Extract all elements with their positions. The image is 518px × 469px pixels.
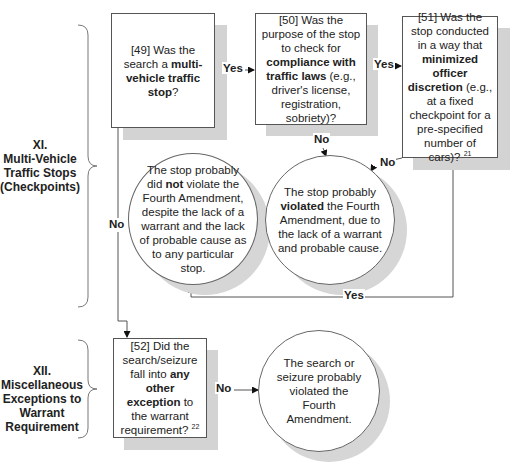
- section-xii-label: XII. Miscellaneous Exceptions to Warrant…: [0, 364, 84, 434]
- text-bold: violated: [280, 200, 323, 212]
- outcome-search-violated: The search or seizure probably violated …: [258, 330, 380, 452]
- footnote-ref: 22: [192, 423, 200, 430]
- edge-label-no: No: [215, 382, 232, 394]
- section-xii-line: Warrant: [0, 406, 84, 420]
- text: The stop probably: [284, 186, 376, 198]
- text: [51] Was the stop conducted in a way tha…: [411, 11, 489, 51]
- text-bold: not: [166, 178, 184, 190]
- outcome-text: The search or seizure probably violated …: [273, 356, 365, 426]
- question-49: [49] Was the search a multi-vehicle traf…: [111, 13, 215, 128]
- text: [50] Was the purpose of the stop to chec…: [262, 14, 360, 54]
- section-xi-line: (Checkpoints): [0, 180, 80, 194]
- question-49-text: [49] Was the search a multi-vehicle traf…: [116, 43, 210, 99]
- question-52-text: [52] Did the search/seizure fall into an…: [118, 339, 202, 437]
- outcome-not-violate: The stop probably did not violate the Fo…: [128, 153, 258, 285]
- edge-label-yes: Yes: [373, 58, 395, 70]
- text: The search or seizure probably violated …: [277, 357, 361, 425]
- edge-label-no: No: [108, 218, 125, 230]
- question-51-text: [51] Was the stop conducted in a way tha…: [407, 10, 493, 164]
- brace-xi: [78, 25, 97, 307]
- edge-label-no: No: [379, 156, 396, 168]
- section-xi-line: XI.: [0, 138, 80, 152]
- section-xi-label: XI. Multi-Vehicle Traffic Stops (Checkpo…: [0, 138, 80, 194]
- text: (e.g., at a fixed checkpoint for a pre-s…: [409, 81, 492, 163]
- question-52: [52] Did the search/seizure fall into an…: [113, 338, 207, 438]
- edge-label-yes: Yes: [343, 289, 365, 301]
- section-xii-line: Requirement: [0, 420, 84, 434]
- section-xii-line: Exceptions to: [0, 392, 84, 406]
- question-50-text: [50] Was the purpose of the stop to chec…: [260, 13, 362, 125]
- outcome-violated: The stop probably violated the Fourth Am…: [265, 155, 395, 285]
- edge-label-no: No: [313, 133, 330, 145]
- section-xi-line: Traffic Stops: [0, 166, 80, 180]
- question-51: [51] Was the stop conducted in a way tha…: [402, 16, 498, 158]
- edge-label-yes: Yes: [222, 62, 244, 74]
- section-xii-line: XII.: [0, 364, 84, 378]
- outcome-text: The stop probably did not violate the Fo…: [139, 163, 247, 275]
- text: ?: [172, 86, 178, 98]
- outcome-text: The stop probably violated the Fourth Am…: [276, 185, 384, 255]
- footnote-ref: 21: [464, 150, 472, 157]
- text: violate the Fourth Amendment, despite th…: [140, 178, 247, 274]
- section-xii-line: Miscellaneous: [0, 378, 84, 392]
- question-50: [50] Was the purpose of the stop to chec…: [255, 13, 367, 125]
- section-xi-line: Multi-Vehicle: [0, 152, 80, 166]
